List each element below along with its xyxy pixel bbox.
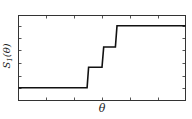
step-chart: θ S1(θ)	[0, 0, 192, 119]
staircase-line	[19, 26, 186, 88]
x-axis-label: θ	[99, 102, 106, 115]
y-axis-label: S1(θ)	[1, 43, 14, 68]
svg-text:S1(θ): S1(θ)	[1, 43, 14, 68]
